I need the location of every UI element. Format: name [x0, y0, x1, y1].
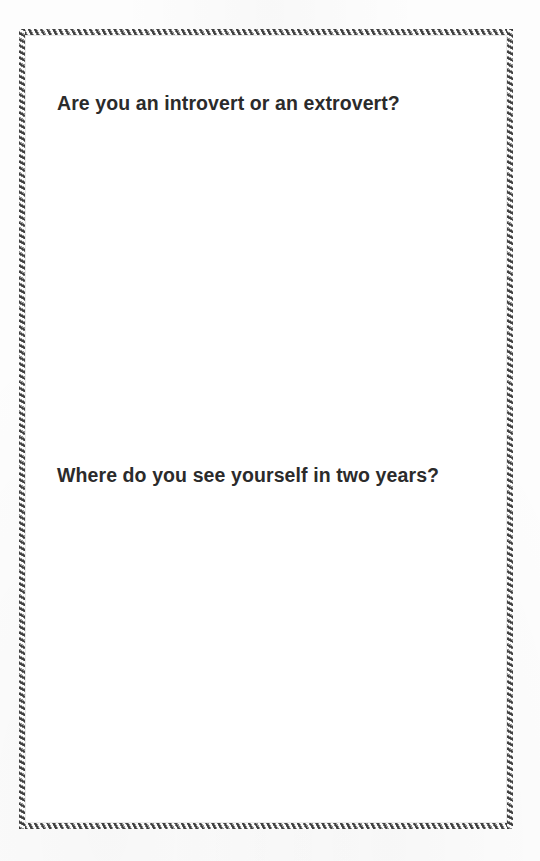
- question-block-2: Where do you see yourself in two years?: [57, 463, 487, 487]
- answer-space-1[interactable]: [57, 127, 487, 457]
- frame-border-right-icon: [507, 29, 513, 829]
- question-block-1: Are you an introvert or an extrovert?: [57, 91, 487, 115]
- worksheet-content: Are you an introvert or an extrovert? Wh…: [25, 35, 507, 823]
- answer-space-2[interactable]: [57, 499, 487, 809]
- worksheet-frame: Are you an introvert or an extrovert? Wh…: [19, 29, 513, 829]
- page-background: Are you an introvert or an extrovert? Wh…: [0, 0, 540, 861]
- question-text-1: Are you an introvert or an extrovert?: [57, 91, 487, 115]
- frame-border-bottom-icon: [19, 823, 513, 829]
- question-text-2: Where do you see yourself in two years?: [57, 463, 487, 487]
